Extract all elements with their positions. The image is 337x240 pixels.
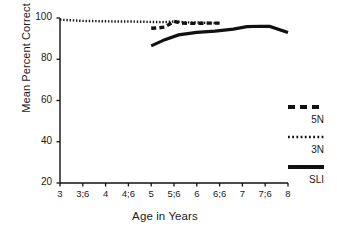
x-axis-title: Age in Years [40,210,290,222]
series-line-5N [151,21,219,28]
legend-swatch-5N [288,103,324,111]
chart-figure: Mean Percent Correct Age in Years 204060… [0,0,337,240]
y-axis-tick-label: 100 [26,11,52,22]
x-axis-tick-label: 8 [273,188,303,199]
legend-swatch-3N [288,133,324,141]
y-axis-tick-label: 80 [26,52,52,63]
legend-swatch-SLI [288,163,324,171]
series-line-SLI [151,26,288,46]
axes [57,18,289,187]
legend-label-5N: 5N [280,114,324,125]
legend-label-SLI: SLI [280,174,324,185]
y-axis-tick-label: 40 [26,135,52,146]
y-axis-tick-label: 20 [26,176,52,187]
data-series [60,20,288,46]
legend-label-3N: 3N [280,144,324,155]
series-line-3N [60,20,220,24]
y-axis-tick-label: 60 [26,94,52,105]
